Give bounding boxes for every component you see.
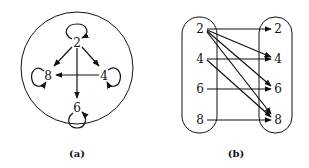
- left-node-8-label: 8: [196, 113, 204, 127]
- node-4-label: 4: [100, 69, 108, 83]
- relation-diagram-figure: 2 8 4 6 (a) 2 4 6 8 2 4 6 8 (b): [0, 0, 309, 168]
- edge-2-to-8: [54, 47, 72, 66]
- panel-b-caption: (b): [228, 148, 244, 159]
- left-node-4-label: 4: [196, 52, 204, 66]
- left-node-6-label: 6: [196, 82, 204, 96]
- edge-2-to-4: [82, 47, 99, 66]
- right-node-4-label: 4: [274, 52, 282, 66]
- right-node-8-label: 8: [274, 113, 282, 127]
- node-2-label: 2: [73, 36, 81, 50]
- self-loop-4: [107, 68, 120, 86]
- right-node-2-label: 2: [274, 22, 282, 36]
- panel-a-digraph: 2 8 4 6 (a): [21, 12, 133, 159]
- left-node-2-label: 2: [196, 22, 204, 36]
- node-6-label: 6: [73, 101, 81, 115]
- right-node-6-label: 6: [274, 82, 282, 96]
- panel-b-bipartite-mapping: 2 4 6 8 2 4 6 8 (b): [182, 17, 292, 159]
- panel-a-caption: (a): [69, 148, 85, 159]
- node-8-label: 8: [44, 69, 52, 83]
